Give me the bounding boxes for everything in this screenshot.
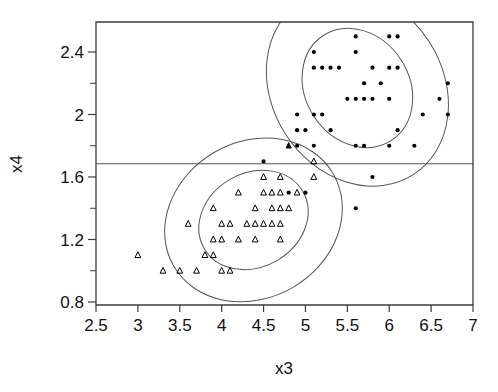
y-tick-label: 2.4 (60, 43, 84, 62)
data-point-dot (287, 191, 291, 195)
y-axis-title: x4 (7, 155, 26, 173)
data-point-dot (370, 66, 374, 70)
scatter-plot-figure: 2.533.544.555.566.57 0.81.21.622.4 x3 x4 (0, 0, 498, 392)
y-axis-ticks: 0.81.21.622.4 (60, 43, 96, 312)
data-point-dot (312, 112, 316, 116)
y-tick-label: 1.6 (60, 168, 84, 187)
data-point-dot (328, 128, 332, 132)
data-point-triangle (185, 221, 191, 227)
data-point-dot (303, 128, 307, 132)
data-point-dot (370, 175, 374, 179)
data-point-triangle (227, 221, 233, 227)
group-b-triangles (135, 158, 317, 273)
data-point-dot (437, 97, 441, 101)
x-axis-ticks: 2.533.544.555.566.57 (84, 305, 478, 335)
data-point-dot (362, 81, 366, 85)
group-a-inner-ellipse (280, 7, 435, 168)
data-point-triangle (219, 236, 225, 242)
data-point-layer (135, 34, 450, 273)
data-point-dot (387, 66, 391, 70)
data-point-dot (354, 34, 358, 38)
data-point-triangle (252, 236, 258, 242)
data-point-triangle (269, 205, 275, 211)
data-point-dot (295, 144, 299, 148)
data-point-dot (328, 66, 332, 70)
data-point-triangle (277, 205, 283, 211)
y-tick-label: 0.8 (60, 293, 84, 312)
data-point-dot (370, 97, 374, 101)
x-tick-label: 4 (217, 316, 226, 335)
data-point-dot (362, 97, 366, 101)
data-point-dot (312, 66, 316, 70)
data-point-dot (337, 66, 341, 70)
x-tick-label: 3.5 (168, 316, 192, 335)
x-axis-title: x3 (275, 359, 293, 378)
x-tick-label: 2.5 (84, 316, 108, 335)
data-point-triangle (294, 189, 300, 195)
data-point-dot (320, 66, 324, 70)
data-point-dot (387, 97, 391, 101)
data-point-dot (421, 112, 425, 116)
data-point-dot (303, 191, 307, 195)
data-point-dot (320, 112, 324, 116)
x-tick-label: 7 (468, 316, 477, 335)
confidence-ellipse-layer (135, 0, 486, 334)
data-point-triangle (277, 174, 283, 180)
x-tick-label: 6 (384, 316, 393, 335)
data-point-dot (446, 81, 450, 85)
x-tick-label: 6.5 (419, 316, 443, 335)
data-point-triangle (210, 205, 216, 211)
data-point-triangle (277, 236, 283, 242)
chart-canvas: 2.533.544.555.566.57 0.81.21.622.4 x3 x4 (0, 0, 498, 392)
data-point-dot (312, 144, 316, 148)
data-point-triangle (277, 221, 283, 227)
data-point-dot (261, 159, 265, 163)
data-point-dot (354, 50, 358, 54)
data-point-dot (312, 50, 316, 54)
x-tick-label: 5.5 (336, 316, 360, 335)
data-point-dot (354, 206, 358, 210)
data-point-dot (362, 144, 366, 148)
x-tick-label: 3 (133, 316, 142, 335)
x-tick-label: 5 (301, 316, 310, 335)
data-point-triangle (244, 221, 250, 227)
data-point-triangle (219, 267, 225, 273)
data-point-triangle (177, 267, 183, 273)
data-point-triangle (311, 174, 317, 180)
data-point-triangle (277, 189, 283, 195)
data-point-triangle (269, 189, 275, 195)
data-point-triangle (269, 221, 275, 227)
data-point-triangle (311, 158, 317, 164)
data-point-triangle (210, 252, 216, 258)
data-point-triangle (160, 267, 166, 273)
data-point-dot (396, 66, 400, 70)
data-point-triangle (261, 221, 267, 227)
data-point-triangle (261, 189, 267, 195)
data-point-dot (396, 128, 400, 132)
data-point-triangle (236, 189, 242, 195)
data-point-dot (387, 144, 391, 148)
data-point-triangle (194, 267, 200, 273)
data-point-dot (345, 97, 349, 101)
data-point-triangle (261, 174, 267, 180)
data-point-dot (354, 144, 358, 148)
data-point-triangle (286, 205, 292, 211)
data-point-dot (354, 97, 358, 101)
data-point-dot (379, 81, 383, 85)
data-point-dot (446, 112, 450, 116)
group-a-outer-ellipse (230, 0, 486, 221)
data-point-triangle (252, 205, 258, 211)
data-point-triangle (135, 252, 141, 258)
group-b-inner-ellipse (181, 151, 327, 289)
highlighted-point (286, 143, 291, 148)
data-point-triangle (210, 236, 216, 242)
x-tick-label: 4.5 (252, 316, 276, 335)
data-point-filled-triangle (286, 143, 291, 148)
y-tick-label: 2 (75, 106, 84, 125)
data-point-dot (412, 144, 416, 148)
data-point-triangle (236, 236, 242, 242)
data-point-dot (295, 128, 299, 132)
data-point-triangle (252, 221, 258, 227)
data-point-triangle (219, 221, 225, 227)
data-point-dot (387, 34, 391, 38)
